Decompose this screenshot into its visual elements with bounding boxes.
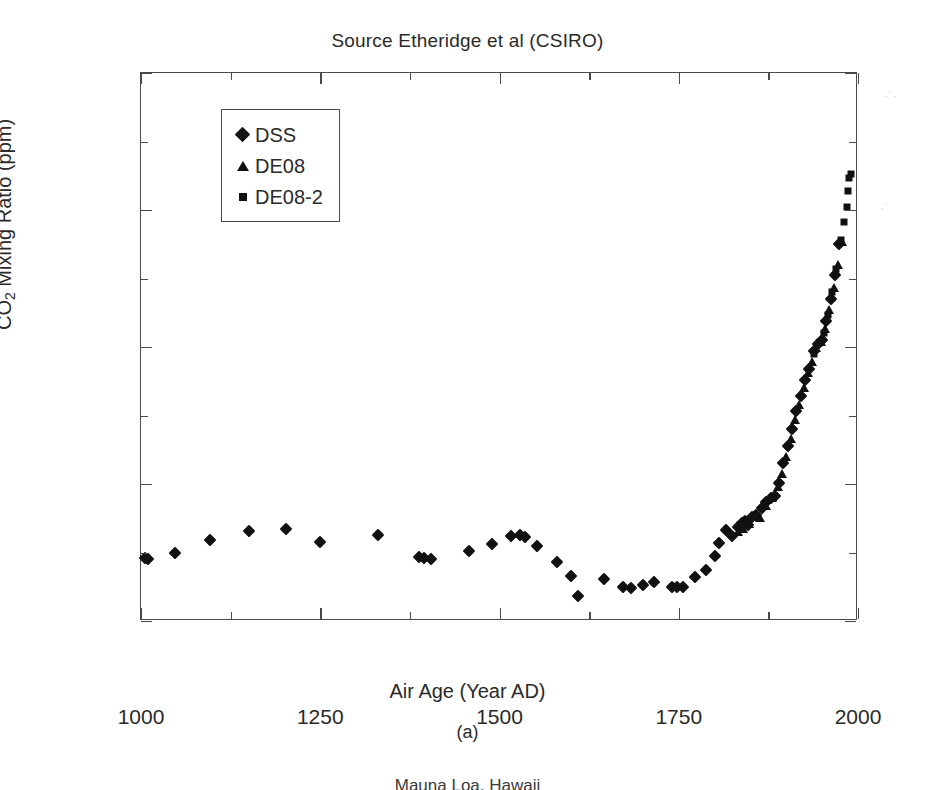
data-point-dss bbox=[713, 537, 726, 550]
x-axis-tick bbox=[410, 612, 411, 619]
x-axis-tick bbox=[768, 73, 769, 80]
x-axis-tick bbox=[141, 73, 142, 84]
data-point-de08 bbox=[786, 434, 796, 443]
data-point-dss bbox=[279, 523, 292, 536]
x-axis-tick bbox=[231, 612, 232, 619]
y-axis-tick bbox=[141, 347, 152, 348]
x-axis-tick bbox=[320, 73, 321, 84]
x-axis-tick bbox=[320, 608, 321, 619]
legend-label: DSS bbox=[255, 125, 296, 145]
x-axis-tick bbox=[679, 73, 680, 84]
y-axis-tick bbox=[849, 279, 856, 280]
data-point-de08 bbox=[781, 452, 791, 461]
data-point-dss bbox=[519, 531, 532, 544]
data-point-de08-2 bbox=[824, 312, 831, 319]
square-marker bbox=[233, 193, 252, 201]
figure-caption: (a) bbox=[0, 722, 935, 743]
legend-item-de08: DE08 bbox=[233, 150, 323, 181]
x-axis-tick bbox=[858, 73, 859, 84]
data-point-dss bbox=[486, 538, 499, 551]
data-point-dss bbox=[565, 569, 578, 582]
data-point-de08 bbox=[773, 482, 783, 491]
square-marker-glyph bbox=[239, 193, 247, 201]
data-point-de08 bbox=[777, 469, 787, 478]
y-axis-tick bbox=[141, 553, 148, 554]
legend-item-dss: DSS bbox=[233, 119, 323, 150]
plot-frame: DSSDE08DE08-2 27029031033035010001250150… bbox=[140, 72, 857, 620]
y-axis-tick bbox=[141, 621, 152, 622]
y-axis-tick bbox=[141, 279, 148, 280]
data-point-de08-2 bbox=[810, 350, 817, 357]
y-axis-title: CO2 Mixing Ratio (ppm) bbox=[0, 119, 16, 330]
legend-item-de08-2: DE08-2 bbox=[233, 181, 323, 212]
data-point-dss bbox=[700, 563, 713, 576]
legend-label: DE08-2 bbox=[255, 187, 323, 207]
scan-artifact: ·˙ bbox=[880, 200, 889, 215]
figure-canvas: Source Etheridge et al (CSIRO) ·˙· ·˙ DS… bbox=[0, 0, 935, 790]
data-point-de08 bbox=[761, 501, 771, 510]
data-point-de08-2 bbox=[843, 203, 850, 210]
data-point-de08 bbox=[803, 368, 813, 377]
data-point-de08 bbox=[744, 519, 754, 528]
data-point-dss bbox=[314, 536, 327, 549]
diamond-marker bbox=[233, 129, 252, 140]
y-axis-tick bbox=[141, 484, 152, 485]
data-point-dss bbox=[688, 571, 701, 584]
x-axis-tick bbox=[410, 73, 411, 80]
y-axis-title-rest: Mixing Ratio (ppm) bbox=[0, 119, 15, 292]
data-point-de08 bbox=[767, 493, 777, 502]
x-axis-tick bbox=[141, 608, 142, 619]
y-axis-tick bbox=[141, 73, 152, 74]
y-axis-title-main: CO bbox=[0, 300, 15, 330]
y-axis-tick bbox=[845, 621, 856, 622]
data-point-dss bbox=[371, 529, 384, 542]
data-point-dss bbox=[648, 576, 661, 589]
data-point-dss bbox=[550, 556, 563, 569]
data-point-dss bbox=[463, 545, 476, 558]
x-axis-tick bbox=[858, 608, 859, 619]
data-point-de08-2 bbox=[847, 171, 854, 178]
y-axis-tick bbox=[849, 142, 856, 143]
data-point-dss bbox=[598, 573, 611, 586]
x-axis-tick bbox=[231, 73, 232, 80]
y-axis-tick bbox=[845, 347, 856, 348]
data-point-de08 bbox=[794, 400, 804, 409]
data-point-dss bbox=[530, 539, 543, 552]
scan-artifact: ·˙· bbox=[884, 88, 897, 103]
y-axis-tick bbox=[845, 484, 856, 485]
chart-legend: DSSDE08DE08-2 bbox=[221, 109, 340, 222]
data-point-de08-2 bbox=[816, 339, 823, 346]
y-axis-tick bbox=[849, 553, 856, 554]
data-point-dss bbox=[637, 578, 650, 591]
data-point-dss bbox=[708, 550, 721, 563]
y-axis-tick bbox=[849, 416, 856, 417]
data-point-dss bbox=[572, 590, 585, 603]
x-axis-tick bbox=[500, 608, 501, 619]
data-point-de08 bbox=[799, 383, 809, 392]
next-figure-title-fragment: Mauna Loa, Hawaii bbox=[0, 776, 935, 790]
data-point-dss bbox=[169, 546, 182, 559]
y-axis-title-subscript: 2 bbox=[2, 292, 18, 300]
data-point-de08 bbox=[755, 513, 765, 522]
data-point-dss bbox=[242, 524, 255, 537]
y-axis-tick bbox=[141, 210, 152, 211]
data-point-de08-2 bbox=[829, 289, 836, 296]
triangle-marker bbox=[233, 161, 252, 171]
y-axis-tick bbox=[141, 416, 148, 417]
triangle-marker-glyph bbox=[237, 161, 249, 171]
data-point-de08-2 bbox=[837, 237, 844, 244]
y-axis-tick bbox=[845, 73, 856, 74]
data-point-de08-2 bbox=[820, 330, 827, 337]
data-point-dss bbox=[203, 534, 216, 547]
chart-title: Source Etheridge et al (CSIRO) bbox=[0, 30, 935, 52]
y-axis-tick bbox=[141, 142, 148, 143]
data-point-de08-2 bbox=[840, 219, 847, 226]
data-point-de08-2 bbox=[844, 187, 851, 194]
data-point-de08-2 bbox=[833, 265, 840, 272]
x-axis-tick bbox=[500, 73, 501, 84]
diamond-marker-glyph bbox=[235, 127, 251, 143]
x-axis-tick bbox=[589, 612, 590, 619]
data-point-de08 bbox=[790, 415, 800, 424]
data-point-de08 bbox=[807, 357, 817, 366]
legend-label: DE08 bbox=[255, 156, 305, 176]
